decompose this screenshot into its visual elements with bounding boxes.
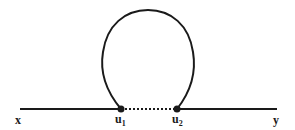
- label-x: x: [15, 113, 21, 127]
- loop-propagator: [102, 10, 194, 109]
- label-u1: u1: [115, 112, 126, 128]
- label-u2: u2: [172, 112, 183, 128]
- feynman-diagram: x y u1 u2: [0, 0, 295, 130]
- label-y: y: [273, 113, 279, 127]
